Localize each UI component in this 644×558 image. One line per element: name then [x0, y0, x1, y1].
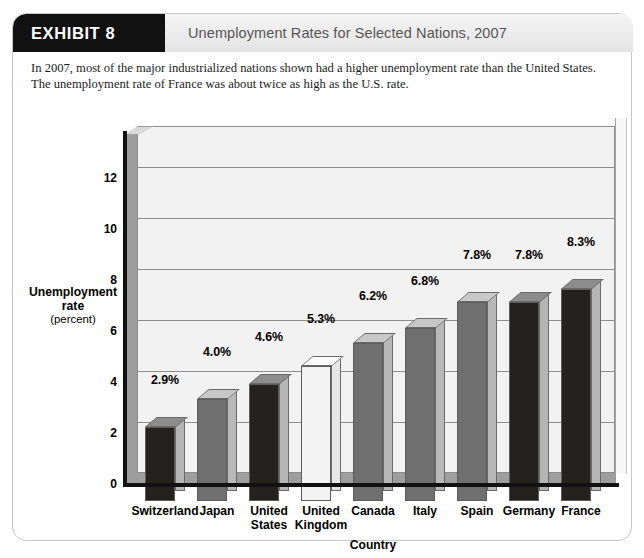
bar-value-label: 6.2% — [338, 289, 408, 303]
exhibit-caption: In 2007, most of the major industrialize… — [31, 61, 616, 92]
bar[interactable] — [301, 366, 331, 501]
exhibit-header: EXHIBIT 8 Unemployment Rates for Selecte… — [13, 14, 633, 52]
gridline — [138, 218, 615, 219]
y-axis-tick-labels: 024681012 — [91, 106, 117, 542]
axis-depth-face — [127, 133, 138, 480]
bar-value-label: 7.8% — [494, 248, 564, 262]
y-tick-label: 4 — [93, 375, 117, 389]
bar-front-face — [561, 289, 591, 501]
bar[interactable] — [353, 343, 383, 501]
y-tick-label: 10 — [93, 222, 117, 236]
exhibit-title: Unemployment Rates for Selected Nations,… — [188, 14, 507, 52]
bar-side-face — [227, 389, 237, 491]
bar-side-face — [487, 292, 497, 491]
x-category-label-line: France — [538, 504, 624, 518]
bar-value-label: 5.3% — [286, 312, 356, 326]
bar-front-face — [457, 302, 487, 501]
exhibit-tag: EXHIBIT 8 — [13, 14, 165, 52]
bar[interactable] — [145, 427, 175, 501]
y-axis-line — [123, 131, 127, 484]
bar[interactable] — [405, 328, 435, 502]
x-category-label: France — [538, 504, 624, 518]
chart-area: Unemployment rate (percent) 024681012 2.… — [13, 106, 633, 542]
bar-side-face — [539, 292, 549, 491]
x-axis-title: Country — [123, 538, 623, 552]
bar-value-label: 8.3% — [546, 235, 616, 249]
y-tick-label: 8 — [93, 273, 117, 287]
plot-area: 2.9%4.0%4.6%5.3%6.2%6.8%7.8%7.8%8.3% — [123, 126, 623, 501]
gridline — [138, 167, 615, 168]
bar-value-label: 2.9% — [130, 373, 200, 387]
bar-side-face — [435, 318, 445, 492]
bar-side-face — [175, 417, 185, 491]
bar-value-label: 4.6% — [234, 330, 304, 344]
exhibit-card: EXHIBIT 8 Unemployment Rates for Selecte… — [12, 13, 632, 541]
bar-value-label: 4.0% — [182, 345, 252, 359]
y-tick-label: 2 — [93, 426, 117, 440]
bar-front-face — [353, 343, 383, 501]
bar-side-face — [383, 333, 393, 491]
bar-front-face — [145, 427, 175, 501]
bar[interactable] — [457, 302, 487, 501]
y-tick-label: 0 — [93, 477, 117, 491]
gridline — [138, 269, 615, 270]
plot-right-wall — [615, 118, 627, 473]
bar-front-face — [509, 302, 539, 501]
bar-front-face — [301, 366, 331, 501]
x-category-label-line: Kingdom — [278, 518, 364, 532]
bar[interactable] — [509, 302, 539, 501]
y-tick-label: 6 — [93, 324, 117, 338]
bar-value-label: 6.8% — [390, 274, 460, 288]
bar-side-face — [591, 279, 601, 491]
bar[interactable] — [561, 289, 591, 501]
exhibit-tag-label: EXHIBIT 8 — [13, 24, 115, 43]
x-axis-line — [123, 483, 619, 487]
bar-front-face — [405, 328, 435, 502]
bar-side-face — [331, 356, 341, 491]
bar-side-face — [279, 374, 289, 491]
y-tick-label: 12 — [93, 171, 117, 185]
